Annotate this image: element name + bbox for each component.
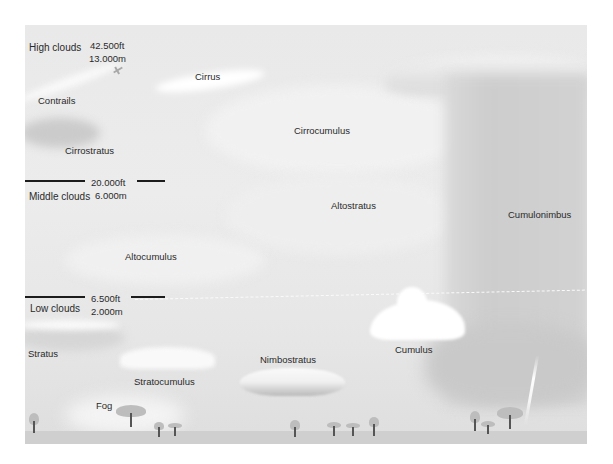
- cirrocumulus-label: Cirrocumulus: [294, 125, 350, 136]
- low-clouds-m: 2.000m: [91, 306, 123, 317]
- airplane-icon: [113, 67, 123, 74]
- cumulus-label: Cumulus: [395, 344, 433, 355]
- cirrostratus-cloud: [25, 118, 100, 148]
- ground: [25, 431, 587, 444]
- contrails-label: Contrails: [38, 95, 76, 106]
- middle-clouds-label: Middle clouds: [29, 191, 90, 202]
- low-clouds-label: Low clouds: [30, 303, 80, 314]
- nimbostratus-label: Nimbostratus: [260, 354, 316, 365]
- low-clouds-ft: 6.500ft: [91, 293, 120, 304]
- altostratus-label: Altostratus: [331, 200, 376, 211]
- stratocumulus-cloud: [120, 347, 215, 369]
- high-clouds-ft: 42.500ft: [90, 40, 124, 51]
- middle-clouds-m: 6.000m: [95, 190, 127, 201]
- cirrus-label: Cirrus: [195, 71, 220, 82]
- altostratus-haze: [225, 175, 455, 255]
- cumulus-cloud-top: [397, 287, 427, 317]
- stratocumulus-label: Stratocumulus: [134, 376, 195, 387]
- middle-clouds-ft: 20.000ft: [91, 177, 125, 188]
- middle-clouds-rule-right: [137, 180, 165, 182]
- altocumulus-label: Altocumulus: [125, 251, 177, 262]
- stratus-label: Stratus: [28, 348, 58, 359]
- cloud-diagram: High clouds 42.500ft 13.000m 20.000ft Mi…: [25, 25, 587, 444]
- fog-label: Fog: [96, 400, 112, 411]
- nimbostratus-cloud: [240, 368, 345, 396]
- cirrostratus-label: Cirrostratus: [65, 145, 114, 156]
- high-clouds-label: High clouds: [29, 42, 81, 53]
- low-clouds-rule-left: [25, 296, 85, 298]
- high-clouds-m: 13.000m: [89, 53, 126, 64]
- cumulonimbus-label: Cumulonimbus: [508, 209, 571, 220]
- middle-clouds-rule-left: [25, 180, 85, 182]
